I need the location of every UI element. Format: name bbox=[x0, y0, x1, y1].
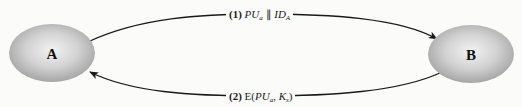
node-b-label: B bbox=[466, 47, 476, 64]
edge-1-label: (1) PUa ∥ IDA bbox=[226, 8, 293, 24]
concatenation-operator: ∥ bbox=[266, 8, 272, 20]
close-paren: ) bbox=[289, 90, 293, 102]
public-key-subscript: a bbox=[259, 14, 263, 22]
identity-subscript: A bbox=[286, 14, 290, 22]
step-number: (2) bbox=[229, 90, 242, 102]
public-key-symbol: PU bbox=[245, 8, 260, 20]
protocol-diagram: A B (1) PUa ∥ IDA (2) E(PUa, Ks) bbox=[0, 0, 522, 107]
encrypt-function: E( bbox=[245, 90, 255, 102]
identity-symbol: ID bbox=[274, 8, 286, 20]
node-a-label: A bbox=[47, 46, 58, 63]
step-number: (1) bbox=[229, 8, 242, 20]
session-key-symbol: K bbox=[279, 90, 286, 102]
public-key-symbol: PU bbox=[255, 90, 270, 102]
edge-2-label: (2) E(PUa, Ks) bbox=[226, 90, 295, 106]
